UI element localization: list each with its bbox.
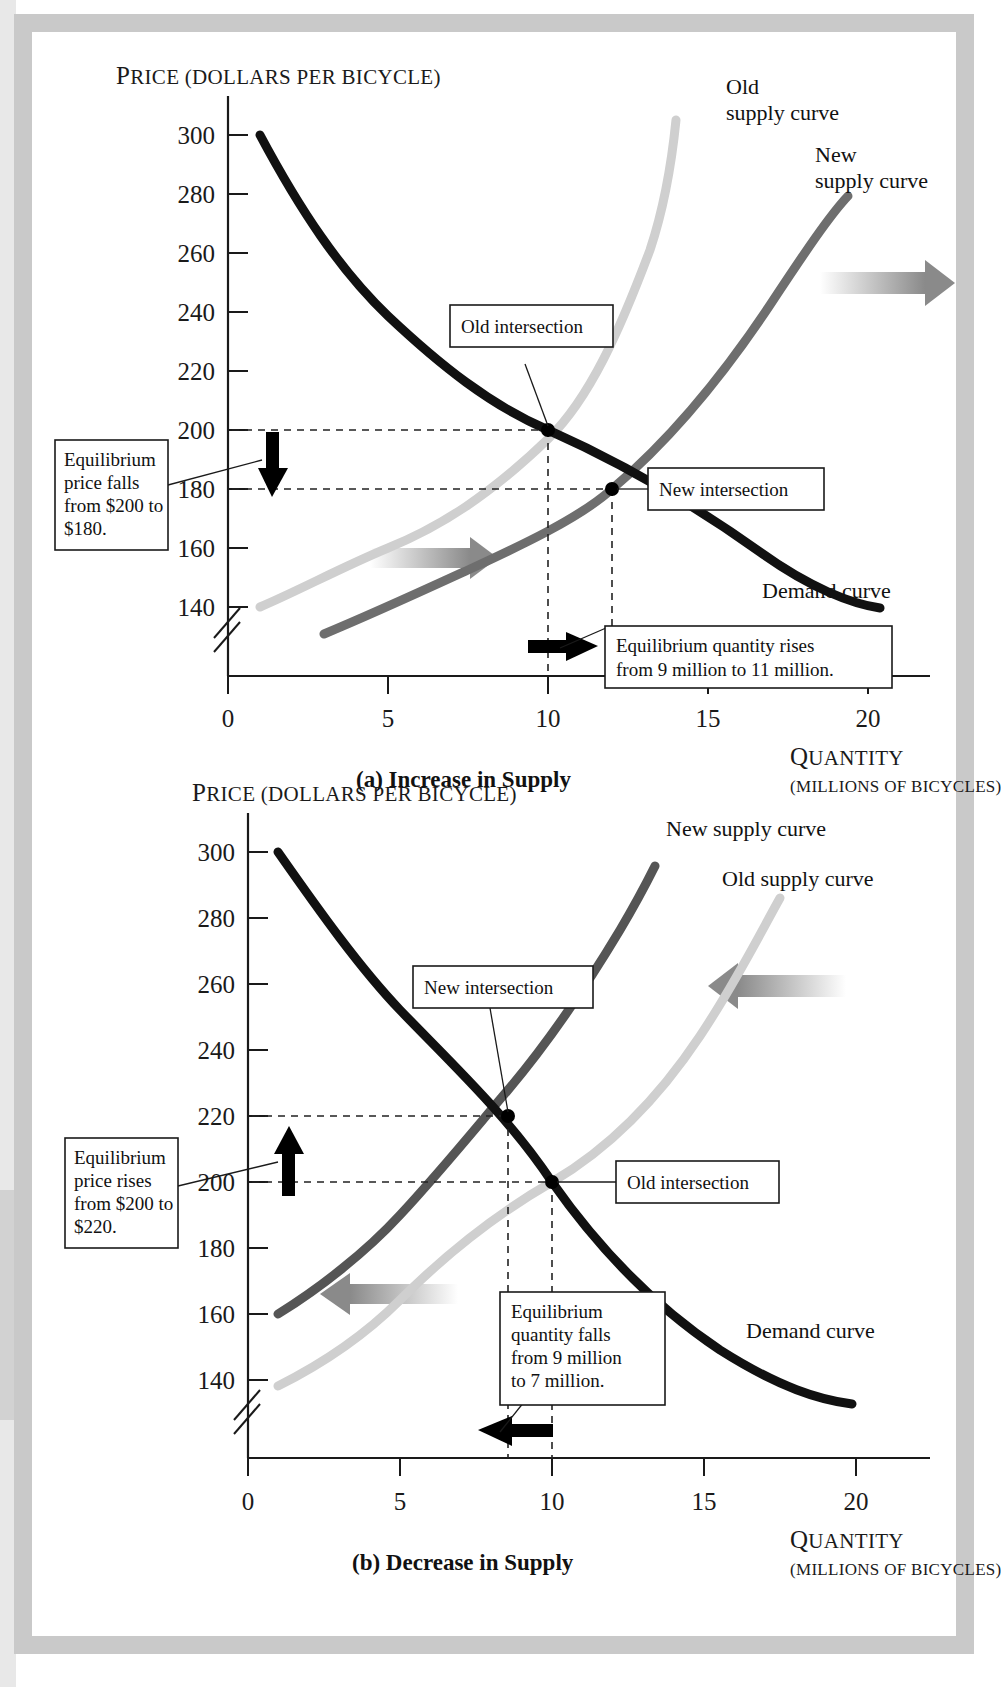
panel-a: PRICE (DOLLARS PER BICYCLE) 300 280 260 … [55,62,1001,796]
panel-a-supply-shift-arrow-upper [820,260,955,306]
panel-b-new-intersection-label: New intersection [424,977,554,998]
panel-a-new-supply-label-line2: supply curve [815,168,928,193]
panel-b-qty-callout-line1: Equilibrium [511,1301,603,1322]
panel-b-x-axis-title: QUANTITY [790,1526,904,1553]
panel-a-qty-callout-line2: from 9 million to 11 million. [616,659,834,680]
panel-b: PRICE (DOLLARS PER BICYCLE) 300 280 260 … [65,779,1001,1579]
panel-a-price-callout-line2: price falls [64,472,139,493]
panel-b-old-intersection-label: Old intersection [627,1172,749,1193]
panel-a-price-callout-line3: from $200 to [64,495,163,516]
panel-b-price-callout-line3: from $200 to [74,1193,173,1214]
panel-a-old-intersection-callout[interactable]: Old intersection [450,305,613,426]
panel-b-ytick-140: 140 [198,1367,236,1394]
panel-a-ytick-180: 180 [178,476,216,503]
panel-b-ytick-240: 240 [198,1037,236,1064]
panel-b-quantity-callout[interactable]: Equilibrium quantity falls from 9 millio… [500,1292,665,1432]
panel-b-qty-callout-line3: from 9 million [511,1347,622,1368]
panel-a-ytick-300: 300 [178,122,216,149]
panel-a-ytick-160: 160 [178,535,216,562]
panel-a-xtick-10: 10 [536,705,561,732]
panel-b-xtick-0: 0 [242,1488,255,1515]
panel-a-x-axis-subtitle: (MILLIONS OF BICYCLES) [790,777,1001,796]
panel-a-old-intersection-label: Old intersection [461,316,583,337]
panel-a-new-intersection-label: New intersection [659,479,789,500]
panel-a-ytick-220: 220 [178,358,216,385]
panel-a-old-supply-label-line2: supply curve [726,100,839,125]
panel-a-ytick-240: 240 [178,299,216,326]
panel-a-quantity-callout[interactable]: Equilibrium quantity rises from 9 millio… [560,626,892,688]
panel-b-ytick-160: 160 [198,1301,236,1328]
panel-b-price-rise-arrow [274,1126,304,1196]
panel-b-old-intersection-dot [545,1175,559,1189]
panel-a-price-callout-line4: $180. [64,518,107,539]
panel-a-xtick-15: 15 [696,705,721,732]
panel-a-price-fall-arrow [258,432,288,497]
panel-a-old-supply-curve [260,120,676,607]
panel-b-y-axis-title: PRICE (DOLLARS PER BICYCLE) [192,779,517,806]
panel-b-price-callout-line2: price rises [74,1170,152,1191]
panel-a-xtick-0: 0 [222,705,235,732]
panel-b-xtick-15: 15 [692,1488,717,1515]
panel-b-caption: (b) Decrease in Supply [352,1550,574,1575]
panel-a-new-intersection-dot [605,482,619,496]
panel-b-qty-callout-line4: to 7 million. [511,1370,604,1391]
panel-b-price-callout-line4: $220. [74,1216,117,1237]
panel-b-ytick-220: 220 [198,1103,236,1130]
panel-b-ytick-180: 180 [198,1235,236,1262]
panel-a-ytick-260: 260 [178,240,216,267]
panel-b-xtick-5: 5 [394,1488,407,1515]
panel-b-ytick-280: 280 [198,905,236,932]
panel-a-ytick-280: 280 [178,181,216,208]
panel-a-y-axis-title: PRICE (DOLLARS PER BICYCLE) [116,62,441,89]
panel-a-demand-curve [260,135,880,608]
panel-a-new-supply-curve [324,196,848,634]
panel-a-xtick-5: 5 [382,705,395,732]
panel-a-ytick-140: 140 [178,594,216,621]
panel-b-x-ticks [248,1458,856,1476]
panel-a-x-axis-title: QUANTITY [790,743,904,770]
panel-b-new-supply-label: New supply curve [666,816,826,841]
supply-demand-figure: PRICE (DOLLARS PER BICYCLE) 300 280 260 … [0,0,1001,1687]
panel-b-xtick-10: 10 [540,1488,565,1515]
panel-b-price-callout-line1: Equilibrium [74,1147,166,1168]
panel-a-ytick-200: 200 [178,417,216,444]
panel-a-demand-curve-label: Demand curve [762,578,891,603]
panel-b-demand-curve-label: Demand curve [746,1318,875,1343]
panel-b-old-supply-label: Old supply curve [722,866,874,891]
panel-a-y-ticks [228,135,248,607]
panel-a-price-callout-line1: Equilibrium [64,449,156,470]
panel-b-xtick-20: 20 [844,1488,869,1515]
panel-b-ytick-260: 260 [198,971,236,998]
panel-b-qty-callout-line2: quantity falls [511,1324,611,1345]
panel-b-price-callout[interactable]: Equilibrium price rises from $200 to $22… [65,1138,278,1248]
panel-b-x-axis-subtitle: (MILLIONS OF BICYCLES) [790,1560,1001,1579]
panel-b-old-intersection-callout[interactable]: Old intersection [557,1161,779,1203]
panel-a-xtick-20: 20 [856,705,881,732]
panel-a-old-supply-label-line1: Old [726,74,759,99]
panel-a-price-callout[interactable]: Equilibrium price falls from $200 to $18… [55,440,262,550]
panel-b-ytick-300: 300 [198,839,236,866]
panel-a-qty-callout-line1: Equilibrium quantity rises [616,635,814,656]
panel-a-new-intersection-callout[interactable]: New intersection [617,468,824,510]
panel-a-new-supply-label-line1: New [815,142,857,167]
panel-b-quantity-fall-arrow [478,1416,553,1446]
